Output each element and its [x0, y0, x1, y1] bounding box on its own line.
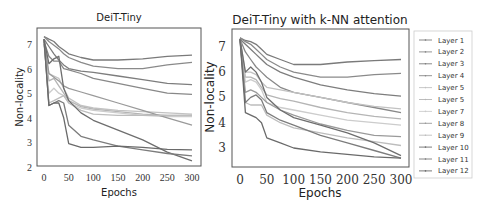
- right-chart-title: DeiT-Tiny with k-NN attention: [232, 13, 407, 27]
- series-line-3: [44, 39, 192, 85]
- legend-label: Layer 1: [438, 37, 464, 45]
- x-tick-label: 150: [111, 172, 126, 183]
- legend-label: Layer 8: [438, 120, 464, 128]
- legend-marker-icon: [425, 170, 427, 172]
- left-chart-title: DeiT-Tiny: [96, 12, 141, 23]
- x-tick-label: 50: [64, 172, 74, 183]
- right-y-axis-label: Non-locality: [203, 61, 217, 132]
- legend-label: Layer 9: [438, 132, 464, 140]
- right-y-tick-labels: 34567: [218, 40, 226, 155]
- x-tick-label: 100: [86, 172, 101, 183]
- series-line-1: [240, 38, 401, 65]
- x-tick-label: 150: [309, 173, 332, 187]
- legend-label: Layer 10: [438, 144, 469, 152]
- y-tick-label: 7: [27, 39, 32, 50]
- legend-marker-icon: [425, 158, 427, 160]
- x-tick-label: 0: [236, 173, 244, 187]
- x-tick-label: 300: [390, 173, 413, 187]
- legend-label: Layer 12: [438, 167, 469, 175]
- left-y-tick-labels: 234567: [27, 39, 32, 173]
- y-tick-label: 3: [218, 141, 226, 155]
- y-tick-label: 7: [218, 40, 226, 54]
- left-y-axis-label: Non-locality: [14, 67, 25, 127]
- y-tick-label: 5: [218, 90, 226, 104]
- left-x-axis-label: Epochs: [101, 187, 137, 198]
- series-line-4: [240, 39, 401, 112]
- y-tick-label: 5: [27, 88, 32, 99]
- legend-marker-icon: [425, 51, 427, 53]
- legend-label: Layer 4: [438, 72, 465, 80]
- x-tick-label: 200: [336, 173, 359, 187]
- x-tick-label: 250: [363, 173, 386, 187]
- legend-marker-icon: [425, 39, 427, 41]
- x-tick-label: 0: [42, 172, 47, 183]
- series-line-3: [240, 39, 401, 96]
- y-tick-label: 4: [218, 116, 226, 130]
- legend-marker-icon: [425, 146, 427, 148]
- legend-marker-icon: [425, 111, 427, 113]
- y-tick-label: 6: [218, 65, 226, 79]
- legend-marker-icon: [425, 123, 427, 125]
- x-tick-label: 300: [185, 172, 200, 183]
- legend-label: Layer 7: [438, 108, 464, 116]
- x-tick-label: 50: [259, 173, 274, 187]
- legend-label: Layer 3: [438, 60, 464, 68]
- x-tick-label: 100: [282, 173, 305, 187]
- series-line-9: [44, 39, 192, 115]
- series-line-2: [240, 38, 401, 77]
- series-line-1: [44, 37, 192, 60]
- y-tick-label: 2: [27, 162, 32, 173]
- legend: Layer 1Layer 2Layer 3Layer 4Layer 5Layer…: [414, 31, 472, 178]
- y-tick-label: 3: [27, 137, 32, 148]
- x-tick-label: 250: [160, 172, 175, 183]
- right-chart-panel: DeiT-Tiny with k-NN attention 34567 0501…: [203, 13, 412, 200]
- series-line-6: [44, 44, 192, 115]
- right-x-tick-labels: 050100150200250300: [236, 173, 412, 187]
- chart-figure: DeiT-Tiny 234567 050100150200250300 Epoc…: [0, 0, 489, 212]
- y-tick-label: 6: [27, 64, 32, 75]
- legend-marker-icon: [425, 63, 427, 65]
- right-series-lines: [240, 38, 401, 158]
- legend-marker-icon: [425, 134, 427, 136]
- left-chart-panel: DeiT-Tiny 234567 050100150200250300 Epoc…: [14, 12, 201, 198]
- left-series-lines: [44, 37, 192, 161]
- left-x-tick-labels: 050100150200250300: [42, 172, 200, 183]
- legend-label: Layer 11: [438, 156, 469, 164]
- legend-marker-icon: [425, 87, 427, 89]
- y-tick-label: 4: [27, 113, 32, 124]
- legend-marker-icon: [425, 99, 427, 101]
- legend-label: Layer 5: [438, 96, 464, 104]
- right-x-axis-label: Epochs: [299, 186, 342, 200]
- legend-marker-icon: [425, 75, 427, 77]
- x-tick-label: 200: [135, 172, 150, 183]
- legend-label: Layer 2: [438, 48, 464, 56]
- legend-label: Layer 5: [438, 84, 464, 92]
